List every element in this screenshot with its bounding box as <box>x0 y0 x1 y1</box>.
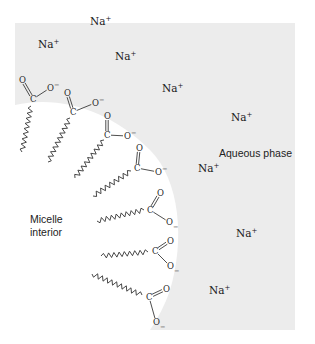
negative-charge: − <box>173 223 178 231</box>
micelle-interior-label-line2: interior <box>30 226 63 238</box>
carbonyl-oxygen: O <box>19 75 26 85</box>
carbonyl-oxygen: O <box>163 284 170 294</box>
single-bond <box>111 135 123 136</box>
carbon-atom: C <box>70 107 77 117</box>
carbon-atom: C <box>147 205 154 215</box>
carbon-atom: C <box>146 292 153 302</box>
negative-charge: − <box>162 165 167 173</box>
carbon-atom: C <box>134 163 141 173</box>
carbonyl-oxygen: O <box>157 188 164 198</box>
anionic-oxygen: O <box>92 98 99 108</box>
anionic-oxygen: O <box>155 167 162 177</box>
aqueous-phase-label: Aqueous phase <box>219 147 292 159</box>
carbon-atom: C <box>104 130 111 140</box>
carbonyl-oxygen: O <box>104 111 111 121</box>
anionic-oxygen: O <box>124 131 131 141</box>
anionic-oxygen: O <box>166 217 173 227</box>
negative-charge: − <box>160 323 165 331</box>
negative-charge: − <box>99 96 104 104</box>
micelle-diagram: COO−COO−COO−COO−COO−COO−COO− Na+Na+Na+Na… <box>0 0 315 344</box>
carbonyl-oxygen: O <box>64 88 71 98</box>
anionic-oxygen: O <box>167 261 174 271</box>
carbonyl-oxygen: O <box>136 143 143 153</box>
negative-charge: − <box>174 267 179 275</box>
micelle-interior-label-line1: Micelle <box>30 213 63 225</box>
carbonyl-oxygen: O <box>167 236 174 246</box>
negative-charge: − <box>54 81 59 89</box>
carbon-atom: C <box>30 94 37 104</box>
anionic-oxygen: O <box>47 83 54 93</box>
negative-charge: − <box>131 129 136 137</box>
anionic-oxygen: O <box>153 317 160 327</box>
